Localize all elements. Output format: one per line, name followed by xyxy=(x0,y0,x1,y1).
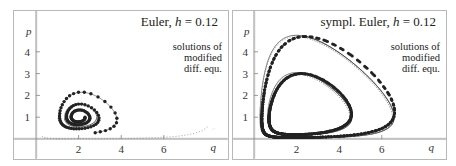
symplectic-euler-step-dot xyxy=(391,119,394,122)
symplectic-euler-step-dot xyxy=(293,73,296,76)
euler-step-dot xyxy=(115,121,118,124)
euler-step-dot xyxy=(58,109,61,112)
euler-step-dot xyxy=(99,130,102,133)
symplectic-euler-step-dot xyxy=(379,81,382,84)
y-tick-label: 2 xyxy=(25,89,31,101)
euler-phase-plot: 2461234qp xyxy=(14,11,228,159)
symplectic-euler-phase-plot: 2461234qp xyxy=(233,11,446,159)
symplectic-euler-step-dot xyxy=(350,114,353,117)
title-value: = 0.12 xyxy=(399,14,436,29)
symplectic-euler-step-dot xyxy=(293,37,296,40)
symplectic-euler-step-dot xyxy=(279,136,282,139)
title-value: = 0.12 xyxy=(181,14,218,29)
symplectic-euler-step-dot xyxy=(388,94,391,97)
symplectic-euler-step-dot xyxy=(313,132,316,135)
symplectic-euler-step-dot xyxy=(322,131,325,134)
euler-step-dot xyxy=(89,92,92,95)
symplectic-euler-step-dot xyxy=(313,136,316,139)
symplectic-euler-plot-title: sympl. Euler, h = 0.12 xyxy=(320,14,436,30)
symplectic-euler-step-dot xyxy=(384,87,387,90)
euler-annotation: solutions of modified diff. equ. xyxy=(173,41,222,74)
symplectic-euler-step-dot xyxy=(266,77,269,80)
modified-equation-dotted-curve xyxy=(260,37,392,138)
symplectic-euler-step-dot xyxy=(327,135,330,138)
symplectic-euler-step-dot xyxy=(273,57,276,60)
symplectic-euler-step-dot xyxy=(263,91,266,94)
symplectic-euler-step-dot xyxy=(300,136,303,139)
y-axis-label: p xyxy=(243,25,250,37)
symplectic-euler-step-dot xyxy=(295,133,298,136)
symplectic-euler-step-dot xyxy=(304,35,307,38)
symplectic-euler-step-dot xyxy=(370,130,373,133)
symplectic-euler-step-dot xyxy=(383,125,386,128)
symplectic-euler-step-dot xyxy=(314,75,317,78)
symplectic-euler-step-dot xyxy=(284,133,287,136)
symplectic-euler-step-dot xyxy=(264,84,267,87)
modified-equation-curve xyxy=(268,73,352,136)
symplectic-euler-step-dot xyxy=(341,94,344,97)
symplectic-euler-step-dot xyxy=(283,79,286,82)
euler-step-dot xyxy=(59,106,62,109)
symplectic-euler-step-dot xyxy=(349,107,352,110)
symplectic-euler-step-dot xyxy=(338,127,341,130)
symplectic-euler-step-dot xyxy=(298,36,301,39)
symplectic-euler-step-dot xyxy=(261,102,264,105)
symplectic-euler-step-dot xyxy=(269,106,272,109)
euler-step-dot xyxy=(109,127,112,130)
symplectic-euler-step-dot xyxy=(356,133,359,136)
symplectic-euler-step-dot xyxy=(295,136,298,139)
symplectic-euler-step-dot xyxy=(263,88,266,91)
symplectic-euler-step-dot xyxy=(276,136,279,139)
y-tick-label: 1 xyxy=(243,111,249,123)
symplectic-euler-step-dot xyxy=(303,72,306,75)
symplectic-euler-step-dot xyxy=(277,85,280,88)
symplectic-euler-step-dot xyxy=(359,133,362,136)
symplectic-euler-step-dot xyxy=(281,45,284,48)
y-tick-label: 3 xyxy=(25,68,31,80)
symplectic-euler-step-dot xyxy=(386,123,389,126)
symplectic-euler-step-dot xyxy=(367,131,370,134)
symplectic-euler-step-dot xyxy=(269,65,272,68)
x-tick-label: 6 xyxy=(161,143,167,155)
symplectic-euler-step-dot xyxy=(287,133,290,136)
symplectic-euler-step-dot xyxy=(298,72,301,75)
euler-step-dot xyxy=(115,117,118,120)
euler-step-dot xyxy=(93,108,96,111)
euler-step-dot xyxy=(83,127,86,130)
symplectic-euler-step-dot xyxy=(261,126,264,129)
symplectic-euler-step-dot xyxy=(389,121,392,124)
annotation-line: solutions of xyxy=(173,41,222,52)
symplectic-euler-step-dot xyxy=(326,81,329,84)
euler-step-dot xyxy=(87,104,90,107)
symplectic-euler-step-dot xyxy=(267,73,270,76)
symplectic-euler-step-dot xyxy=(307,136,310,139)
symplectic-euler-step-dot xyxy=(268,121,271,124)
euler-step-dot xyxy=(103,100,106,103)
symplectic-euler-step-dot xyxy=(344,98,347,101)
symplectic-euler-annotation: solutions of modified diff. equ. xyxy=(391,41,440,74)
y-tick-label: 1 xyxy=(25,111,31,123)
symplectic-euler-step-dot xyxy=(261,123,264,126)
euler-plot-title: Euler, h = 0.12 xyxy=(141,14,218,30)
symplectic-euler-step-dot xyxy=(333,135,336,138)
symplectic-euler-step-dot xyxy=(284,42,287,45)
symplectic-euler-step-dot xyxy=(349,134,352,137)
x-axis-label: q xyxy=(428,141,434,153)
euler-step-dot xyxy=(86,126,89,129)
symplectic-euler-step-dot xyxy=(380,127,383,130)
euler-step-dot xyxy=(96,95,99,98)
symplectic-euler-plot-panel: 2461234qp sympl. Euler, h = 0.12 solutio… xyxy=(232,10,447,160)
symplectic-euler-step-dot xyxy=(260,119,263,122)
symplectic-euler-step-dot xyxy=(291,133,294,136)
y-tick-label: 2 xyxy=(243,89,249,101)
annotation-line: modified xyxy=(173,52,222,63)
euler-step-dot xyxy=(77,91,80,94)
symplectic-euler-step-dot xyxy=(334,44,337,47)
symplectic-euler-step-dot xyxy=(324,136,327,139)
title-method: Euler, xyxy=(141,14,175,29)
euler-step-dot xyxy=(61,103,64,106)
symplectic-euler-step-dot xyxy=(377,128,380,131)
symplectic-euler-step-dot xyxy=(366,67,369,70)
euler-step-dot xyxy=(83,103,86,106)
symplectic-euler-step-dot xyxy=(318,37,321,40)
